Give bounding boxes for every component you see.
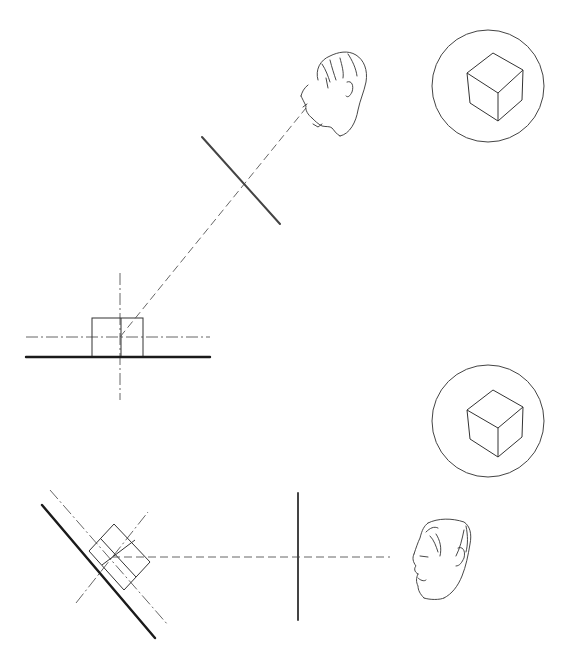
bottom-view-cube: [467, 390, 523, 457]
top-cube-square: [92, 318, 143, 357]
top-panel: [26, 30, 544, 400]
bottom-view-circle: [432, 365, 544, 477]
bottom-ground-line: [42, 505, 155, 638]
top-view: [432, 30, 544, 142]
bottom-view: [432, 365, 544, 477]
bottom-panel: [42, 365, 544, 638]
top-observer-head: [301, 52, 367, 136]
top-view-cube: [467, 53, 523, 121]
projection-diagram: [0, 0, 577, 659]
top-picture-plane: [202, 137, 280, 224]
bottom-parallel-axis: [50, 490, 168, 625]
bottom-observer-head: [413, 519, 471, 599]
